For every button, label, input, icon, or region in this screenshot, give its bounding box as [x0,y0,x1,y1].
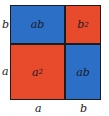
cell-label: ab [31,18,45,31]
cell-ab-top-left: ab [11,6,64,43]
binomial-square: ab b2 a2 ab [10,5,101,100]
side-label-a-bottom: a [35,103,42,114]
cell-label-base: a [32,66,39,79]
side-label-b-bottom: b [80,103,87,114]
cell-ab-bottom-right: ab [66,45,100,99]
cell-b-squared: b2 [66,6,100,43]
side-label-a-left: a [2,66,9,77]
cell-label: ab [76,66,90,79]
side-label-b-left: b [2,19,9,30]
cell-a-squared: a2 [11,45,64,99]
